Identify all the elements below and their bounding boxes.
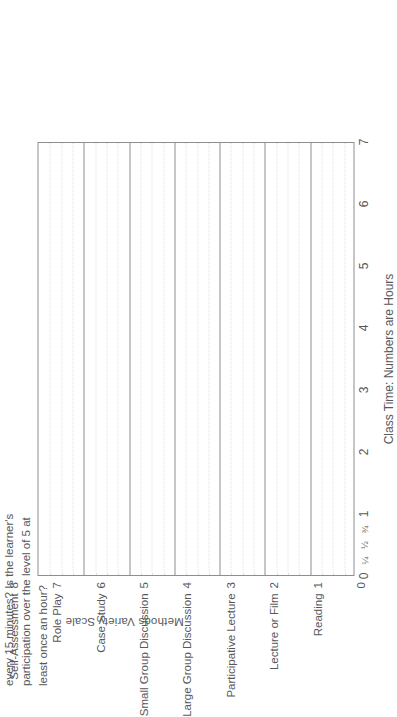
annotation-line-1: every 15 minutes? Is the learner's [0, 386, 17, 686]
x-axis-tick-6: 6 [356, 201, 370, 208]
plot-area-wrapper [37, 142, 354, 576]
x-axis-minor-tick: ¼ [358, 557, 369, 565]
quarter-hour-gridline [151, 143, 152, 575]
quarter-hour-gridline [287, 143, 288, 575]
y-axis-tick-value: 4 [180, 582, 192, 588]
x-axis-minor-tick: ½ [358, 541, 369, 549]
quarter-hour-gridline [117, 143, 118, 575]
quarter-hour-gridline [95, 143, 96, 575]
quarter-hour-gridline [332, 143, 333, 575]
hour-gridline [219, 143, 220, 575]
quarter-hour-gridline [185, 143, 186, 575]
y-axis: Structured Experience10Return Demonstrat… [37, 578, 354, 686]
hour-gridline [174, 143, 175, 575]
x-axis-title: Class Time: Numbers are Hours [381, 142, 395, 576]
hour-gridline [264, 143, 265, 575]
quarter-hour-gridline [298, 143, 299, 575]
y-axis-tick-value: 2 [267, 582, 279, 588]
y-axis-tick-label: Role Play [50, 593, 62, 642]
quarter-hour-gridline [140, 143, 141, 575]
quarter-hour-gridline [321, 143, 322, 575]
quarter-hour-gridline [253, 143, 254, 575]
hour-gridline [83, 143, 84, 575]
quarter-hour-gridline [344, 143, 345, 575]
x-axis-tick-1: 1 [356, 511, 370, 518]
y-axis-tick-label: Case Study [94, 593, 106, 652]
quarter-hour-gridline [106, 143, 107, 575]
y-axis-tick-label: Reading [311, 593, 323, 636]
y-axis-tick-value: 5 [137, 582, 149, 588]
annotation-line-2: participation over the level of 5 at [17, 386, 34, 686]
x-axis-minor-tick: ¾ [358, 526, 369, 534]
x-axis: 01234567¼½¾ [354, 142, 380, 576]
quarter-hour-gridline [197, 143, 198, 575]
x-axis-tick-4: 4 [356, 325, 370, 332]
hour-gridline [310, 143, 311, 575]
hour-gridline [129, 143, 130, 575]
y-axis-tick-value: 1 [311, 582, 323, 588]
y-axis-tick-label: Participative Lecture [224, 593, 236, 697]
quarter-hour-gridline [276, 143, 277, 575]
quarter-hour-gridline [163, 143, 164, 575]
y-axis-tick-value: 0 [354, 582, 366, 588]
plot-area [37, 142, 354, 576]
y-axis-tick-label: Lecture or Film [267, 593, 279, 670]
y-axis-tick-value: 7 [50, 582, 62, 588]
x-axis-tick-0: 0 [356, 573, 370, 580]
annotation-line-3: least once an hour? [34, 386, 51, 686]
x-axis-tick-7: 7 [356, 139, 370, 146]
annotation-note: every 15 minutes? Is the learner'spartic… [0, 386, 51, 686]
y-axis-tick-label: Small Group Discussion [137, 593, 149, 716]
quarter-hour-gridline [242, 143, 243, 575]
quarter-hour-gridline [72, 143, 73, 575]
quarter-hour-gridline [61, 143, 62, 575]
x-axis-tick-3: 3 [356, 387, 370, 394]
x-axis-tick-5: 5 [356, 263, 370, 270]
x-axis-tick-2: 2 [356, 449, 370, 456]
quarter-hour-gridline [230, 143, 231, 575]
quarter-hour-gridline [208, 143, 209, 575]
y-axis-tick-label: Large Group Discussion [180, 593, 192, 716]
y-axis-tick-value: 3 [224, 582, 236, 588]
y-axis-tick-value: 6 [94, 582, 106, 588]
